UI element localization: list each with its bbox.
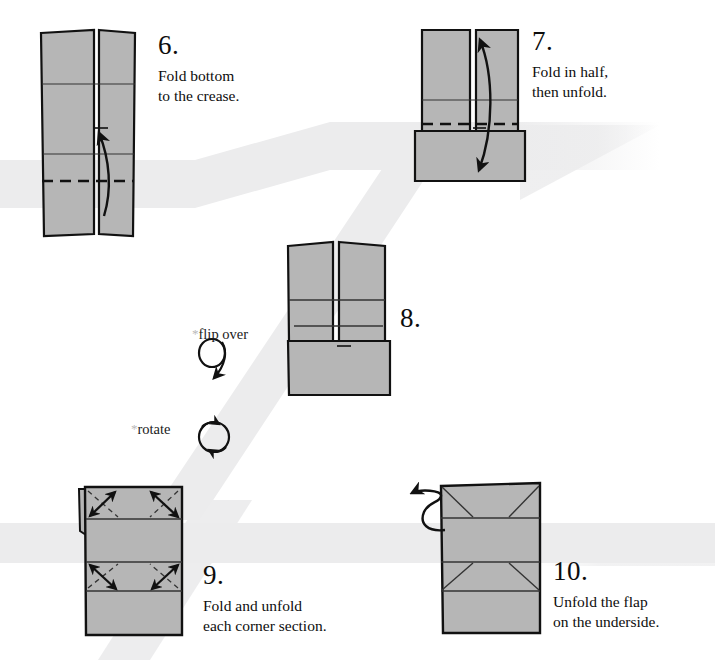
step-instruction-text: Fold in half, then unfold. [532, 62, 608, 103]
flip-over-icon [199, 339, 225, 378]
step-number: 9. [203, 562, 327, 589]
figure-step-9 [79, 487, 182, 635]
figure-step-6 [41, 30, 135, 236]
step-instruction-text: Fold bottom to the crease. [158, 66, 239, 107]
figure-step-10 [412, 483, 540, 633]
figure-step-7 [415, 30, 525, 181]
step-number: 10. [553, 558, 659, 585]
step-number: 6. [158, 32, 239, 59]
caption-step-6: 6.Fold bottom to the crease. [158, 32, 239, 107]
symbol-label-text: flip over [199, 326, 249, 342]
caption-step-7: 7.Fold in half, then unfold. [532, 28, 608, 103]
caption-step-10: 10.Unfold the flap on the underside. [553, 558, 659, 633]
figure-step-8 [288, 242, 390, 395]
symbol-label-text: rotate [138, 421, 171, 437]
caption-step-9: 9.Fold and unfold each corner section. [203, 562, 327, 637]
step-number: 7. [532, 28, 608, 55]
step-instruction-text: Fold and unfold each corner section. [203, 596, 327, 637]
rotate-icon [199, 422, 229, 452]
flip-over-label: *flip over [192, 326, 248, 343]
origami-instruction-page: 6.Fold bottom to the crease. 7.Fold in h… [0, 0, 715, 667]
step-number: 8. [400, 305, 421, 332]
caption-step-8: 8. [400, 305, 421, 332]
step-instruction-text: Unfold the flap on the underside. [553, 592, 659, 633]
rotate-label: *rotate [131, 421, 171, 438]
